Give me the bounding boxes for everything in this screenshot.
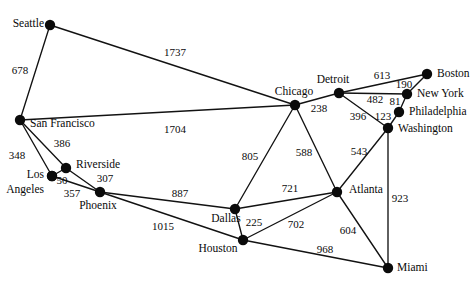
edge-weight-detroit-washington: 396 (350, 111, 367, 122)
edge-weight-riverside-phoenix: 307 (97, 173, 114, 184)
edge-weight-philadelphia-washington: 123 (375, 111, 392, 122)
graph-node-phoenix (95, 187, 105, 197)
edge-weight-dallas-houston: 225 (246, 217, 263, 228)
graph-node-seattle (45, 20, 55, 30)
edge-weight-san_francisco-los_angeles: 348 (9, 150, 26, 161)
graph-node-miami (383, 263, 393, 273)
node-label-los_angeles: Los (27, 169, 44, 181)
node-label-washington: Washington (398, 123, 453, 135)
graph-node-washington (383, 123, 393, 133)
edge-weight-houston-miami: 968 (317, 244, 334, 255)
edge-weight-detroit-boston: 613 (374, 70, 391, 81)
node-label-philadelphia: Philadelphia (409, 106, 467, 118)
edge-weight-houston-atlanta: 702 (288, 219, 305, 230)
graph-node-atlanta (332, 187, 342, 197)
node-label-san_francisco: San Francisco (30, 118, 95, 130)
edge-weight-chicago-dallas: 805 (242, 151, 259, 162)
graph-node-new_york (402, 89, 412, 99)
edge-weight-phoenix-houston: 1015 (152, 221, 174, 232)
node-label-dallas: Dallas (211, 213, 240, 225)
graph-node-san_francisco (15, 115, 25, 125)
graph-node-boston (422, 69, 432, 79)
node-label-miami: Miami (397, 262, 428, 274)
city-distance-graph: 1737678348386170450357307887101523880558… (0, 0, 475, 286)
node-label-los_angeles2: Angeles (6, 184, 44, 196)
edge-weight-phoenix-dallas: 887 (172, 188, 189, 199)
edge-weight-seattle-san_francisco: 678 (12, 65, 29, 76)
node-label-boston: Boston (437, 68, 470, 80)
edge-weight-atlanta-miami: 604 (340, 225, 357, 236)
graph-node-detroit (334, 88, 344, 98)
edge-weight-chicago-atlanta: 588 (296, 147, 313, 158)
graph-edge-houston-miami (243, 240, 388, 268)
edge-weight-los_angeles-riverside: 50 (57, 175, 68, 186)
node-label-houston: Houston (199, 243, 238, 255)
graph-node-chicago (290, 100, 300, 110)
node-label-phoenix: Phoenix (79, 200, 117, 212)
graph-node-riverside (61, 163, 71, 173)
node-label-new_york: New York (417, 88, 464, 100)
edge-weight-seattle-chicago: 1737 (164, 47, 186, 58)
node-label-seattle: Seattle (13, 18, 44, 30)
edge-weight-new_york-philadelphia: 81 (390, 96, 401, 107)
edge-weight-boston-new_york: 190 (396, 79, 413, 90)
edge-weight-san_francisco-riverside: 386 (54, 138, 71, 149)
node-label-chicago: Chicago (275, 86, 313, 98)
node-label-riverside: Riverside (76, 159, 120, 171)
edge-weight-san_francisco-chicago: 1704 (164, 124, 186, 135)
edge-weight-washington-atlanta: 543 (351, 146, 368, 157)
edge-weight-los_angeles-phoenix: 357 (64, 188, 81, 199)
node-label-atlanta: Atlanta (349, 184, 383, 196)
graph-node-philadelphia (394, 107, 404, 117)
node-layer (15, 20, 432, 273)
edge-weight-dallas-atlanta: 721 (282, 183, 299, 194)
graph-node-houston (238, 235, 248, 245)
graph-edge-seattle-chicago (50, 25, 295, 105)
edge-weight-chicago-detroit: 238 (311, 103, 328, 114)
graph-edge-phoenix-dallas (100, 192, 235, 209)
node-label-detroit: Detroit (317, 74, 350, 86)
edge-weight-washington-miami: 923 (392, 193, 409, 204)
edge-weight-detroit-new_york: 482 (367, 94, 384, 105)
